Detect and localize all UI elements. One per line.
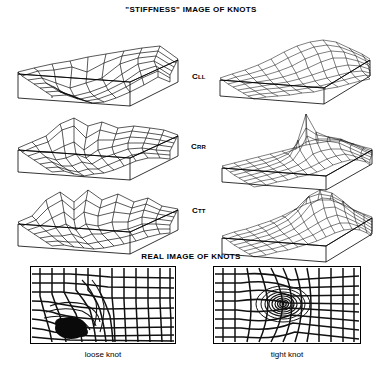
real-image-tight-knot bbox=[213, 266, 361, 344]
surface-plot-crr-loose-knot bbox=[12, 112, 184, 192]
row-label-cll: CLL bbox=[192, 72, 206, 81]
page-title: "STIFFNESS" IMAGE OF KNOTS bbox=[0, 5, 382, 14]
section-title-real-image: REAL IMAGE OF KNOTS bbox=[0, 252, 382, 261]
surface-plot-cll-loose-knot bbox=[12, 26, 184, 110]
row-label-crr: CRR bbox=[191, 142, 206, 151]
row-label-crr-subscript: RR bbox=[197, 144, 206, 150]
caption-loose-knot: loose knot bbox=[30, 350, 176, 359]
figure-root: "STIFFNESS" IMAGE OF KNOTS bbox=[0, 0, 382, 370]
real-image-loose-knot bbox=[30, 266, 176, 344]
row-label-ctt: CTT bbox=[192, 206, 206, 215]
row-label-cll-subscript: LL bbox=[198, 74, 206, 80]
surface-plot-cll-tight-knot bbox=[212, 24, 378, 110]
caption-tight-knot: tight knot bbox=[213, 350, 361, 359]
row-label-ctt-subscript: TT bbox=[198, 208, 206, 214]
